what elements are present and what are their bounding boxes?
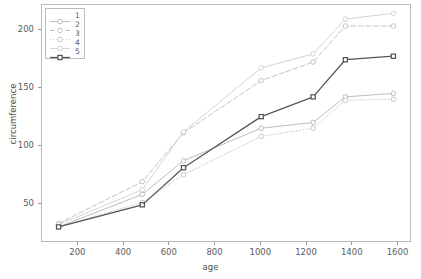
legend-sample-5: [49, 47, 71, 56]
data-point-4-1372: [343, 17, 348, 22]
data-point-5-484: [140, 203, 144, 207]
series-2: [56, 24, 395, 226]
legend-sample-1: [49, 11, 71, 20]
legend-sample-3: [49, 29, 71, 38]
legend-item-2: 2: [49, 20, 80, 29]
x-tick-mark-1400: [351, 242, 352, 245]
y-tick-label-50: 50: [1, 198, 34, 208]
data-point-5-118: [57, 225, 61, 229]
series-4: [56, 11, 395, 227]
series-line-5: [59, 56, 394, 227]
data-point-5-664: [181, 166, 185, 170]
data-point-2-1582: [391, 24, 396, 29]
legend-label-2: 2: [75, 20, 80, 29]
data-point-2-484: [140, 179, 145, 184]
legend-item-3: 3: [49, 29, 80, 38]
series-layer: [56, 11, 395, 229]
x-tick-mark-1200: [306, 242, 307, 245]
chart-legend: 12345: [45, 8, 85, 59]
data-point-4-664: [181, 129, 186, 134]
data-point-1-1231: [311, 120, 316, 125]
x-tick-mark-200: [77, 242, 78, 245]
legend-sample-2: [49, 20, 71, 29]
series-3: [56, 97, 395, 229]
x-tick-mark-600: [168, 242, 169, 245]
x-tick-label-600: 600: [149, 247, 189, 257]
data-point-5-1582: [391, 54, 395, 58]
data-point-4-1004: [259, 66, 264, 71]
x-tick-label-1400: 1400: [332, 247, 372, 257]
data-point-3-1582: [391, 97, 396, 102]
legend-item-1: 1: [49, 11, 80, 20]
data-point-2-1004: [259, 78, 264, 83]
y-axis-title: circumference: [8, 74, 18, 154]
y-tick-label-200: 200: [1, 24, 34, 34]
x-tick-mark-1000: [260, 242, 261, 245]
x-tick-label-1200: 1200: [286, 247, 326, 257]
data-point-1-1582: [391, 91, 396, 96]
x-tick-mark-800: [214, 242, 215, 245]
legend-label-1: 1: [75, 11, 80, 20]
legend-item-4: 4: [49, 38, 80, 47]
data-point-3-664: [181, 172, 186, 177]
data-point-5-1231: [311, 95, 315, 99]
legend-item-5: 5: [49, 47, 80, 56]
data-point-3-1004: [259, 134, 264, 139]
y-tick-mark-100: [38, 145, 41, 146]
y-tick-mark-50: [38, 203, 41, 204]
series-5: [57, 54, 396, 229]
data-point-1-484: [140, 192, 145, 197]
y-tick-mark-150: [38, 87, 41, 88]
x-axis-title: age: [0, 262, 421, 272]
data-point-3-1372: [343, 98, 348, 103]
data-point-4-1582: [391, 11, 396, 16]
legend-label-3: 3: [75, 29, 80, 38]
data-point-3-1231: [311, 126, 316, 131]
x-tick-label-1000: 1000: [240, 247, 280, 257]
data-point-5-1372: [343, 58, 347, 62]
chart-root: 50100150200 2004006008001000120014001600…: [0, 0, 421, 279]
legend-label-4: 4: [75, 38, 80, 47]
data-point-1-1004: [259, 126, 264, 131]
x-tick-label-200: 200: [57, 247, 97, 257]
chart-plot-svg: [41, 4, 411, 242]
data-point-1-664: [181, 158, 186, 163]
series-line-4: [59, 13, 394, 224]
x-tick-label-400: 400: [103, 247, 143, 257]
legend-sample-4: [49, 38, 71, 47]
series-line-2: [59, 26, 394, 223]
series-1: [56, 91, 395, 229]
data-point-4-1231: [311, 52, 316, 57]
x-tick-mark-400: [123, 242, 124, 245]
series-line-1: [59, 93, 394, 227]
x-tick-label-1600: 1600: [378, 247, 418, 257]
y-tick-mark-200: [38, 29, 41, 30]
data-point-2-1231: [311, 60, 316, 65]
data-point-4-484: [140, 187, 145, 192]
data-point-5-1004: [259, 115, 263, 119]
x-tick-label-800: 800: [195, 247, 235, 257]
data-point-2-1372: [343, 24, 348, 29]
legend-label-5: 5: [75, 47, 80, 56]
x-tick-mark-1600: [397, 242, 398, 245]
